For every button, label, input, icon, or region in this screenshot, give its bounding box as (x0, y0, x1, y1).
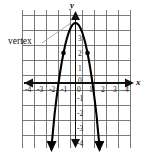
y-tick-label-2: 2 (78, 50, 82, 58)
x-tick-label-3: 3 (113, 86, 117, 94)
y-tick-label-0: 0 (78, 77, 82, 85)
y-tick-label-1: 1 (78, 65, 82, 73)
y-axis-up-arrowhead (71, 11, 80, 20)
x-tick-label-2: 2 (101, 86, 105, 94)
y-tick-label--1: -1 (77, 95, 83, 103)
x-tick-label--3: -3 (37, 86, 43, 94)
y-tick-label-3: 3 (78, 35, 82, 43)
point-neg1-2 (61, 51, 66, 56)
y-tick-label--2: -2 (77, 110, 83, 118)
parabola-left-arrowhead (47, 141, 57, 152)
parabola-graph-figure: -4 -3 -2 -1 0 1 2 3 4 3 2 1 0 -1 -2 -3 -… (0, 0, 155, 154)
x-tick-label--2: -2 (49, 86, 55, 94)
y-tick-label--3: -3 (77, 125, 83, 133)
vertex-annotation-label: vertex (8, 37, 32, 47)
x-axis-name: x (136, 78, 141, 87)
x-tick-label-0: 0 (77, 86, 81, 94)
x-tick-label-1: 1 (89, 86, 93, 94)
point-1-2 (85, 51, 90, 56)
y-axis-name: y (70, 1, 74, 10)
parabola-right-arrowhead (94, 141, 104, 152)
x-tick-label--4: -4 (25, 86, 31, 94)
x-tick-label-4: 4 (125, 86, 129, 94)
y-tick-label--4: -4 (77, 140, 83, 148)
x-tick-label--1: -1 (61, 86, 67, 94)
